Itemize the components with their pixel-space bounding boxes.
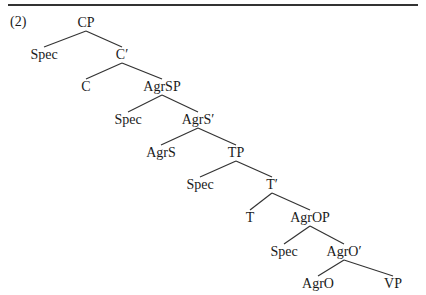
node-spec-agrsp: Spec — [114, 113, 141, 127]
tree-edge — [200, 161, 236, 177]
tree-edge — [310, 226, 344, 244]
node-agro-bar: AgrO′ — [327, 245, 362, 259]
node-agrsp: AgrSP — [143, 80, 180, 94]
tree-edge — [122, 63, 162, 79]
node-t: T — [246, 211, 255, 225]
node-tp: TP — [228, 146, 244, 160]
syntax-tree-edges — [0, 0, 426, 295]
tree-edge — [272, 193, 310, 210]
tree-edge — [86, 31, 122, 47]
tree-edge — [318, 260, 344, 276]
node-agrs-bar: AgrS′ — [182, 113, 215, 127]
tree-edge — [128, 95, 162, 112]
tree-edge — [86, 63, 122, 79]
node-agrs: AgrS — [146, 146, 176, 160]
tree-edge — [198, 128, 236, 145]
node-spec-tp: Spec — [186, 178, 213, 192]
tree-edge — [44, 31, 86, 47]
node-agrop: AgrOP — [290, 211, 330, 225]
tree-edge — [162, 95, 198, 112]
node-c: C — [81, 80, 90, 94]
node-vp: VP — [384, 277, 402, 291]
tree-edge — [284, 226, 310, 244]
node-agro: AgrO — [302, 277, 334, 291]
tree-edge — [236, 161, 272, 177]
node-spec-cp: Spec — [30, 48, 57, 62]
node-spec-agrop: Spec — [270, 245, 297, 259]
node-c-bar: C′ — [116, 48, 128, 62]
node-cp: CP — [77, 16, 94, 30]
tree-edge — [344, 260, 393, 276]
tree-edge — [161, 128, 198, 145]
node-t-bar: T′ — [266, 178, 278, 192]
tree-edge — [250, 193, 272, 210]
